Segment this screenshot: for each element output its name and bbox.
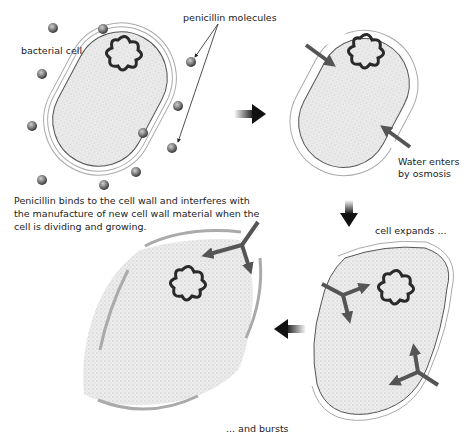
bursting-cell	[83, 222, 261, 409]
penicillin-molecules-label: penicillin molecules	[183, 11, 277, 24]
step-arrow-down-icon	[340, 200, 358, 227]
cell-expands-label: cell expands ...	[375, 224, 447, 237]
step-arrow-left-icon	[274, 319, 306, 339]
step-arrow-right-icon	[234, 104, 266, 124]
osmosis-label: by osmosis	[398, 167, 451, 180]
intact-cell	[24, 3, 195, 194]
bacterial-cell-label: bacterial cell	[21, 44, 82, 57]
expanding-cell	[312, 241, 454, 420]
label-pointer-arrows	[178, 24, 218, 142]
and-bursts-label: ... and bursts	[226, 422, 289, 435]
penicillin-diagram: bacterial cell penicillin molecules Wate…	[0, 0, 474, 444]
explanation-text: Penicillin binds to the cell wall and in…	[14, 194, 264, 233]
